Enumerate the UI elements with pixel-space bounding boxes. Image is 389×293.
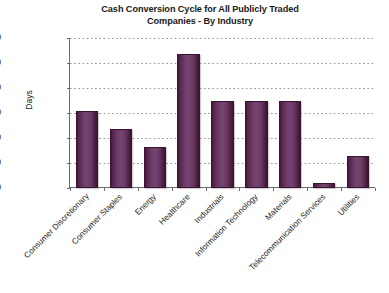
y-tick-label: 100 [0,59,1,67]
bar-slot [211,38,233,188]
bar [245,101,267,189]
bar [76,111,98,189]
bar-slot [245,38,267,188]
plot-area: 120100806040200 [70,38,375,188]
y-tick-label: 40 [0,134,1,142]
bar [110,129,132,188]
bars-layer [70,38,375,188]
bar [211,101,233,189]
y-axis-title: Days [24,70,34,130]
bar-slot [110,38,132,188]
bar-chart: Cash Conversion Cycle for All Publicly T… [0,0,389,293]
bar-slot [313,38,335,188]
bar-slot [144,38,166,188]
y-tick-label: 80 [0,84,1,92]
chart-title-line-1: Cash Conversion Cycle for All Publicly T… [40,4,360,16]
bar-slot [347,38,369,188]
bar-slot [76,38,98,188]
y-tick-label: 60 [0,109,1,117]
bar [144,147,166,188]
y-tick-label: 120 [0,34,1,42]
y-tick-label: 20 [0,159,1,167]
bar [177,54,199,188]
bar [347,156,369,189]
x-axis-label: Consumer Discretionary [22,192,90,260]
chart-title-line-2: Companies - By Industry [40,16,360,28]
bar-slot [177,38,199,188]
bar-slot [279,38,301,188]
bar [279,101,301,189]
x-axis-category-labels: Consumer DiscretionaryConsumer StaplesEn… [0,191,389,293]
bar [313,183,335,188]
chart-title: Cash Conversion Cycle for All Publicly T… [40,4,360,27]
